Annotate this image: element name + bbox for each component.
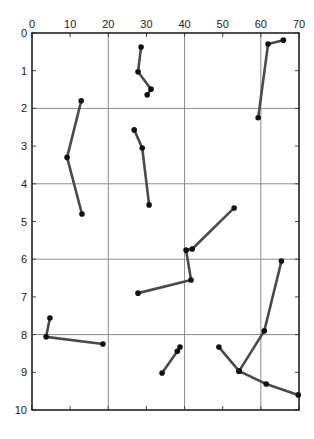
track-point (146, 202, 152, 208)
track-point (78, 98, 84, 104)
track-point (139, 145, 145, 151)
track-point (236, 368, 242, 374)
tick-layer (32, 33, 299, 410)
track-4 (131, 127, 151, 208)
y-tick-label: 0 (21, 27, 27, 39)
track-line (46, 318, 103, 344)
y-tick-label: 10 (15, 404, 27, 416)
track-line (239, 261, 281, 371)
track-point (281, 37, 287, 43)
track-7 (159, 344, 183, 376)
track-8 (236, 258, 284, 374)
track-6 (43, 315, 105, 347)
track-point (131, 127, 137, 133)
plot-frame (32, 33, 299, 410)
chart: 010203040506070012345678910 (0, 0, 314, 439)
track-point (189, 246, 195, 252)
x-tick-label: 70 (293, 18, 305, 30)
track-2 (135, 44, 154, 97)
track-line (258, 40, 283, 118)
track-point (135, 69, 141, 75)
y-tick-label: 3 (21, 140, 27, 152)
track-point (216, 344, 222, 350)
track-point (138, 44, 144, 50)
track-point (265, 41, 271, 47)
track-point (188, 277, 194, 283)
x-tick-label: 50 (217, 18, 229, 30)
x-tick-label: 10 (64, 18, 76, 30)
track-point (47, 315, 53, 321)
track-line (134, 130, 149, 205)
x-tick-label: 60 (255, 18, 267, 30)
track-point (79, 211, 85, 217)
track-point (135, 290, 141, 296)
track-layer (43, 37, 301, 397)
x-tick-label: 0 (29, 18, 35, 30)
y-tick-label: 8 (21, 329, 27, 341)
x-tick-label: 40 (178, 18, 190, 30)
y-tick-label: 6 (21, 253, 27, 265)
track-point (261, 328, 267, 334)
y-tick-label: 2 (21, 102, 27, 114)
track-point (279, 258, 285, 264)
grid-layer (32, 33, 299, 410)
track-1 (64, 98, 84, 217)
track-point (295, 392, 301, 398)
track-9 (216, 344, 301, 397)
tick-label-layer: 010203040506070012345678910 (15, 18, 305, 416)
y-tick-label: 5 (21, 216, 27, 228)
y-tick-label: 7 (21, 291, 27, 303)
y-tick-label: 9 (21, 366, 27, 378)
track-line (219, 347, 298, 395)
track-point (183, 247, 189, 253)
track-5 (135, 205, 237, 296)
track-point (177, 344, 183, 350)
x-tick-label: 20 (102, 18, 114, 30)
x-tick-label: 30 (140, 18, 152, 30)
track-point (159, 370, 165, 376)
y-tick-label: 1 (21, 65, 27, 77)
track-point (148, 86, 154, 92)
track-point (64, 155, 70, 161)
track-point (144, 92, 150, 98)
track-point (231, 205, 237, 211)
track-point (255, 115, 261, 121)
track-point (100, 341, 106, 347)
y-tick-label: 4 (21, 178, 27, 190)
track-point (263, 381, 269, 387)
track-point (43, 334, 49, 340)
